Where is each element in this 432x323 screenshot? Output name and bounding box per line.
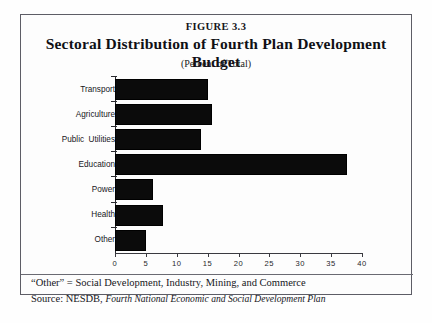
bar — [115, 104, 212, 125]
bar — [115, 79, 208, 100]
x-axis-tick-label: 35 — [318, 259, 344, 268]
bar — [115, 179, 153, 200]
other-definition-note: “Other” = Social Development, Industry, … — [31, 277, 306, 288]
bar-row — [115, 205, 362, 226]
bar — [115, 154, 347, 175]
x-axis-tick — [177, 253, 178, 257]
y-axis-tick — [111, 76, 117, 77]
source-prefix: Source: NESDB, — [31, 293, 103, 304]
x-axis-tick-label: 0 — [102, 259, 128, 268]
category-label: Power — [35, 185, 115, 194]
source-publication-title: Fourth National Economic and Social Deve… — [105, 293, 325, 304]
y-axis-tick — [111, 126, 117, 127]
category-label: Transport — [35, 85, 115, 94]
x-axis-tick-label: 10 — [164, 259, 190, 268]
x-axis-tick-label: 20 — [226, 259, 252, 268]
category-label: Public Utilities — [35, 135, 115, 144]
category-axis-labels: TransportAgriculturePublic UtilitiesEduc… — [29, 77, 115, 253]
y-axis-tick — [111, 227, 117, 228]
x-axis-tick — [331, 253, 332, 257]
y-axis-tick — [111, 176, 117, 177]
x-axis-tick-label: 30 — [287, 259, 313, 268]
x-axis-tick — [300, 253, 301, 257]
bar-row — [115, 104, 362, 125]
x-axis-tick — [362, 253, 363, 257]
category-label: Education — [35, 160, 115, 169]
bar — [115, 205, 163, 226]
bar-row — [115, 129, 362, 150]
y-axis-tick — [111, 151, 117, 152]
category-label: Agriculture — [35, 110, 115, 119]
category-label: Health — [35, 210, 115, 219]
x-axis-tick-label: 40 — [349, 259, 375, 268]
x-axis-tick-label: 25 — [256, 259, 282, 268]
x-axis-tick — [208, 253, 209, 257]
footnote-divider — [21, 274, 413, 275]
x-axis-tick — [146, 253, 147, 257]
x-axis-tick-label: 15 — [195, 259, 221, 268]
x-axis-tick-label: 5 — [133, 259, 159, 268]
figure-frame: FIGURE 3.3 Sectoral Distribution of Four… — [20, 14, 412, 295]
bar-row — [115, 230, 362, 251]
x-axis-tick — [239, 253, 240, 257]
x-axis-tick — [115, 253, 116, 257]
bar-chart-plot: TransportAgriculturePublic UtilitiesEduc… — [21, 77, 413, 272]
bar-row — [115, 179, 362, 200]
bar — [115, 129, 201, 150]
bar-series — [115, 77, 365, 253]
x-axis-tick — [269, 253, 270, 257]
y-axis-tick — [111, 202, 117, 203]
bar-row — [115, 79, 362, 100]
figure-number: FIGURE 3.3 — [21, 21, 411, 32]
source-note: Source: NESDB, Fourth National Economic … — [31, 293, 325, 304]
figure-screenshot: FIGURE 3.3 Sectoral Distribution of Four… — [0, 0, 432, 323]
figure-subtitle: (Percent of Total) — [21, 58, 411, 69]
bar — [115, 230, 146, 251]
bar-row — [115, 154, 362, 175]
y-axis-tick — [111, 101, 117, 102]
category-label: Other — [35, 235, 115, 244]
